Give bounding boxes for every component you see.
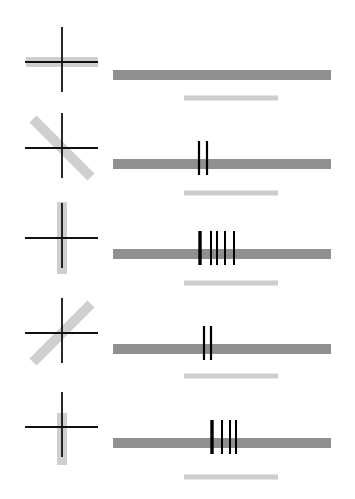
fringe-line-2 — [210, 326, 212, 360]
fringe-line-1 — [203, 326, 205, 360]
fringe-line-1 — [198, 231, 201, 265]
long-bar — [113, 70, 331, 80]
diagram-row-3 — [25, 202, 331, 286]
long-bar — [113, 159, 331, 169]
diagram-row-2 — [25, 113, 331, 196]
fringe-line-3 — [216, 231, 218, 265]
long-bar — [113, 249, 331, 259]
short-bar — [184, 475, 278, 480]
long-bar — [113, 344, 331, 354]
fringe-line-4 — [224, 231, 226, 265]
fringe-line-4 — [235, 420, 237, 454]
short-bar — [184, 96, 278, 101]
short-bar — [184, 374, 278, 379]
short-bar — [184, 281, 278, 286]
fringe-diagram — [0, 0, 355, 499]
fringe-line-2 — [210, 231, 212, 265]
diagram-row-4 — [25, 298, 331, 379]
fringe-line-2 — [206, 141, 208, 175]
fringe-line-1 — [198, 141, 200, 175]
fringe-line-3 — [229, 420, 231, 454]
diagram-row-5 — [25, 392, 331, 480]
fringe-line-1 — [210, 420, 213, 454]
fringe-line-2 — [221, 420, 223, 454]
short-bar — [184, 191, 278, 196]
diagram-row-1 — [25, 27, 331, 101]
fringe-line-5 — [233, 231, 235, 265]
